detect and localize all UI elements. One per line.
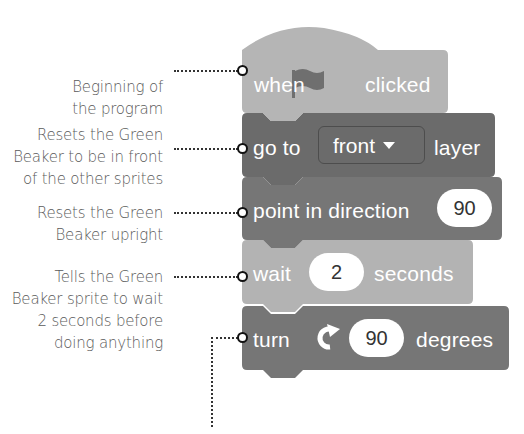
connector-dot (237, 207, 248, 218)
connector-dot (237, 65, 248, 76)
when-label: when (254, 74, 305, 95)
connector-dot (237, 143, 248, 154)
wait-label: wait (253, 263, 291, 284)
connector-dot (237, 271, 248, 282)
layer-dropdown[interactable]: front (318, 126, 425, 164)
layer-dropdown-value: front (333, 134, 375, 157)
direction-input[interactable]: 90 (437, 189, 492, 227)
degrees-label: degrees (416, 329, 493, 350)
point-in-direction-label: point in direction (253, 200, 410, 221)
layer-label: layer (434, 137, 481, 158)
turn-label: turn (253, 329, 290, 350)
connector-dot (237, 332, 248, 343)
clicked-label: clicked (365, 74, 431, 95)
wait-seconds-input[interactable]: 2 (309, 253, 364, 291)
turn-degrees-input[interactable]: 90 (349, 319, 404, 357)
seconds-label: seconds (374, 263, 454, 284)
go-to-label: go to (253, 137, 301, 158)
dropdown-arrow-icon (383, 142, 395, 149)
